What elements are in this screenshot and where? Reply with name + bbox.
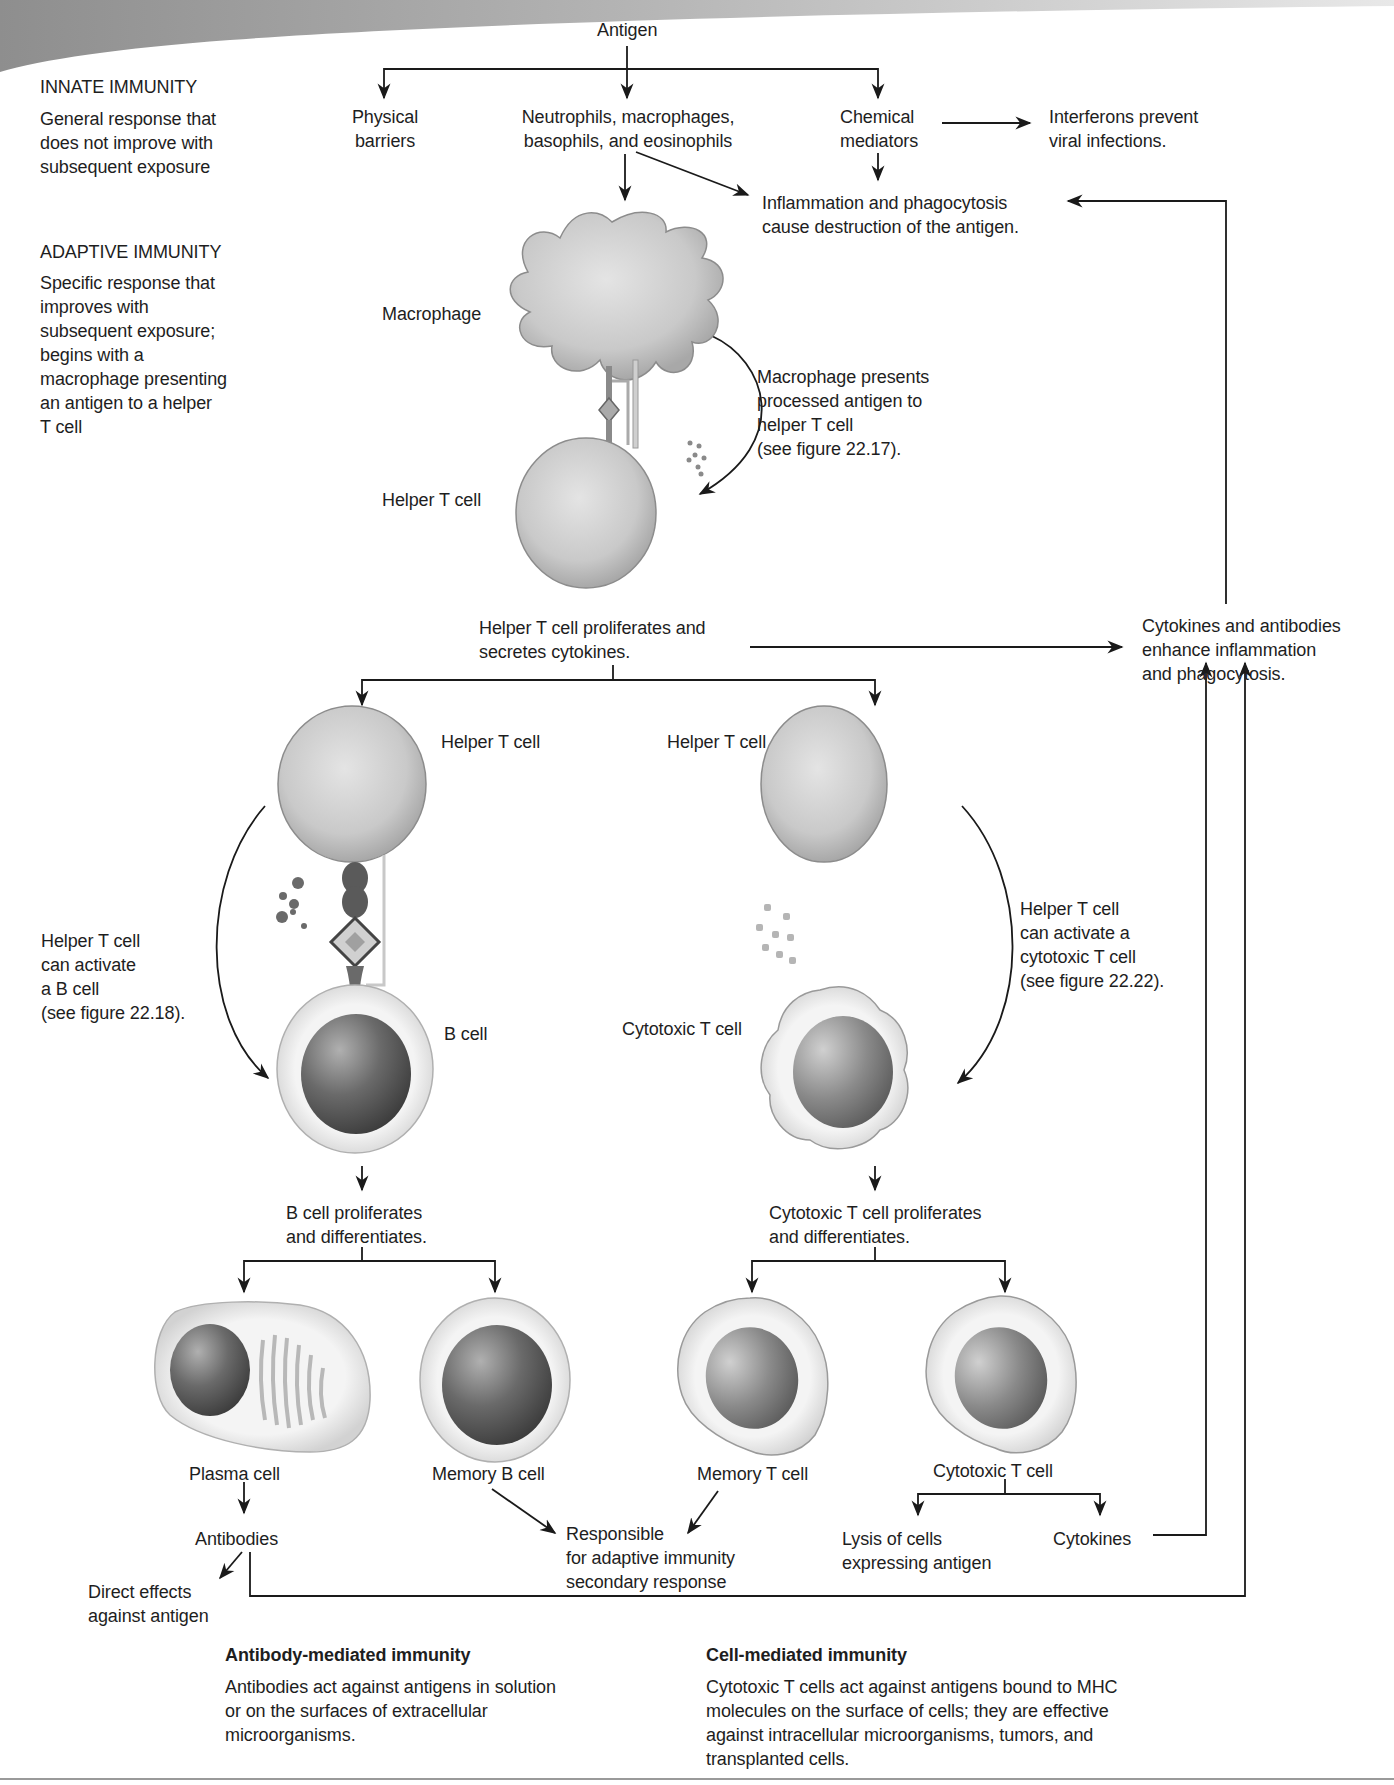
helper-t-cell-t-branch-illustration <box>761 706 887 862</box>
cytotoxic-t-cell-effector-label: Cytotoxic T cell <box>933 1459 1053 1483</box>
plasma-cell-label: Plasma cell <box>189 1462 280 1486</box>
physical-barriers-label: Physical barriers <box>340 105 430 153</box>
chemical-mediators-label: Chemical mediators <box>840 105 918 153</box>
cytokines-label: Cytokines <box>1053 1527 1131 1551</box>
plasma-cell-illustration <box>155 1302 370 1452</box>
helper-t-cell-b-branch-illustration <box>278 706 426 862</box>
helper-t-proliferates-label: Helper T cell proliferates and secretes … <box>479 616 705 664</box>
cytotoxic-t-cell-label: Cytotoxic T cell <box>622 1017 742 1041</box>
phagocytes-label: Neutrophils, macrophages, basophils, and… <box>508 105 748 153</box>
cytotoxic-t-cell-effector-illustration <box>926 1296 1076 1453</box>
innate-immunity-description: General response that does not improve w… <box>40 107 216 179</box>
adaptive-immunity-title: ADAPTIVE IMMUNITY <box>40 240 221 264</box>
memory-t-cell-label: Memory T cell <box>697 1462 808 1486</box>
direct-effects-label: Direct effects against antigen <box>88 1580 209 1628</box>
b-cell-activation-note: Helper T cell can activate a B cell (see… <box>41 929 185 1025</box>
cell-mediated-title: Cell-mediated immunity <box>706 1643 907 1667</box>
macrophage-presents-note: Macrophage presents processed antigen to… <box>757 365 929 461</box>
cytokines-enhance-label: Cytokines and antibodies enhance inflamm… <box>1142 614 1341 686</box>
memory-b-cell-illustration <box>420 1298 570 1462</box>
macrophage-illustration <box>510 212 723 450</box>
b-cell-proliferates-label: B cell proliferates and differentiates. <box>286 1201 427 1249</box>
b-cell-illustration <box>277 985 433 1153</box>
cytotoxic-t-cell-illustration <box>761 987 908 1149</box>
cytokine-dots <box>687 441 707 477</box>
antibody-mediated-description: Antibodies act against antigens in solut… <box>225 1675 556 1747</box>
adaptive-immunity-description: Specific response that improves with sub… <box>40 271 227 439</box>
cytotoxic-activation-note: Helper T cell can activate a cytotoxic T… <box>1020 897 1164 993</box>
cytotoxic-proliferates-label: Cytotoxic T cell proliferates and differ… <box>769 1201 982 1249</box>
lysis-label: Lysis of cells expressing antigen <box>842 1527 991 1575</box>
b-branch-helper-t-label: Helper T cell <box>441 730 540 754</box>
macrophage-label: Macrophage <box>382 302 481 326</box>
cytokine-dots-t <box>756 904 796 964</box>
antigen-label: Antigen <box>597 18 657 42</box>
interferons-label: Interferons prevent viral infections. <box>1049 105 1198 153</box>
immune-response-diagram <box>0 0 1394 1785</box>
b-cell-label: B cell <box>444 1022 487 1046</box>
innate-immunity-title: INNATE IMMUNITY <box>40 75 197 99</box>
t-branch-helper-t-label: Helper T cell <box>667 730 766 754</box>
responsible-secondary-response-label: Responsible for adaptive immunity second… <box>566 1522 735 1594</box>
inflammation-label: Inflammation and phagocytosis cause dest… <box>762 191 1019 239</box>
memory-b-cell-label: Memory B cell <box>432 1462 545 1486</box>
antibodies-label: Antibodies <box>195 1527 278 1551</box>
memory-t-cell-illustration <box>678 1298 828 1455</box>
helper-t-cell-label: Helper T cell <box>382 488 481 512</box>
bottom-divider <box>0 1778 1394 1780</box>
cell-mediated-description: Cytotoxic T cells act against antigens b… <box>706 1675 1117 1771</box>
antibody-mediated-title: Antibody-mediated immunity <box>225 1643 470 1667</box>
helper-t-cell-illustration <box>516 438 656 588</box>
